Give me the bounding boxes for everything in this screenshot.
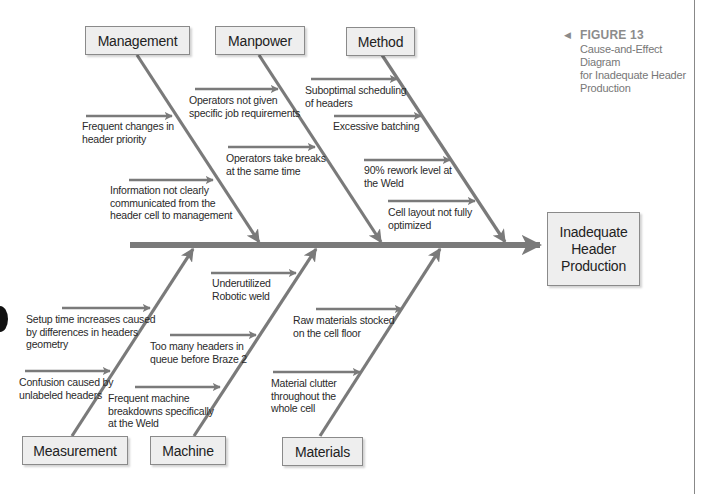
bone-materials bbox=[320, 249, 440, 436]
figure-number: FIGURE 13 bbox=[580, 28, 644, 42]
effect-label-line: Production bbox=[561, 258, 626, 275]
cause-label: Underutilized Robotic weld bbox=[212, 277, 271, 302]
cause-label: Raw materials stocked on the cell floor bbox=[293, 314, 394, 339]
effect-box: Inadequate Header Production bbox=[547, 212, 640, 286]
cause-label: Information not clearly communicated fro… bbox=[110, 184, 232, 222]
category-label: Materials bbox=[295, 444, 350, 460]
category-label: Manpower bbox=[228, 33, 292, 49]
cause-label: Setup time increases caused by differenc… bbox=[26, 313, 155, 351]
caption-marker-icon: ◀ bbox=[564, 30, 571, 40]
category-box-manpower: Manpower bbox=[215, 26, 305, 55]
cause-label: Too many headers in queue before Braze 2 bbox=[150, 340, 247, 365]
page-rule-divider bbox=[694, 0, 695, 494]
category-label: Machine bbox=[162, 443, 214, 459]
cause-label: Frequent machine breakdowns specifically… bbox=[108, 392, 214, 430]
effect-label-line: Inadequate bbox=[559, 224, 627, 241]
category-box-machine: Machine bbox=[150, 436, 226, 465]
fishbone-diagram: Management Manpower Method Measurement M… bbox=[0, 0, 702, 494]
cause-label: Operators not given specific job require… bbox=[189, 94, 300, 119]
category-box-measurement: Measurement bbox=[22, 436, 128, 465]
cause-label: Cell layout not fully optimized bbox=[388, 206, 472, 231]
category-label: Management bbox=[98, 33, 178, 49]
effect-label-line: Header bbox=[571, 241, 616, 258]
category-box-method: Method bbox=[346, 27, 415, 56]
cause-label: Suboptimal scheduling of headers bbox=[305, 84, 406, 109]
cause-label: Material clutter throughout the whole ce… bbox=[271, 377, 337, 415]
cause-label: 90% rework level at the Weld bbox=[364, 164, 452, 189]
figure-title: Cause-and-Effect Diagram for Inadequate … bbox=[580, 43, 700, 95]
category-box-management: Management bbox=[85, 26, 190, 55]
cause-label: Frequent changes in header priority bbox=[82, 120, 174, 145]
category-label: Method bbox=[358, 34, 404, 50]
category-label: Measurement bbox=[33, 443, 116, 459]
cause-label: Excessive batching bbox=[333, 120, 419, 133]
cause-label: Confusion caused by unlabeled headers bbox=[19, 376, 113, 401]
category-box-materials: Materials bbox=[282, 437, 363, 466]
cause-label: Operators take breaks at the same time bbox=[226, 152, 326, 177]
